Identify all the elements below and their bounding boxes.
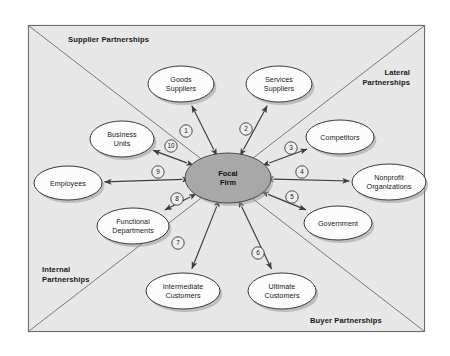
quadrant-label-buyer: Buyer Partnerships	[310, 316, 382, 325]
node-label: Customers	[264, 291, 300, 300]
quadrant-label-text: Partnerships	[42, 275, 90, 284]
number-label: 4	[300, 168, 304, 175]
node-label: Departments	[112, 226, 154, 235]
quadrant-label-text: Supplier Partnerships	[68, 35, 149, 44]
node-label: Units	[114, 139, 131, 148]
connector-number-3: 3	[285, 142, 297, 154]
connector-number-5: 5	[286, 191, 298, 203]
connector-number-9: 9	[152, 166, 164, 178]
connector-number-1: 1	[180, 125, 192, 137]
number-label: 1	[184, 127, 188, 134]
diagram-canvas: Supplier PartnershipsLateralPartnerships…	[0, 0, 450, 356]
number-label: 2	[244, 125, 248, 132]
node-label: Competitors	[320, 133, 360, 142]
quadrant-label-text: Buyer Partnerships	[310, 316, 382, 325]
node-label: Employees	[50, 179, 86, 188]
node-label: Firm	[220, 178, 236, 187]
connector-number-10: 10	[165, 140, 177, 152]
quadrant-label-supplier: Supplier Partnerships	[68, 35, 149, 44]
number-label: 10	[167, 142, 175, 149]
partnership-diagram: Supplier PartnershipsLateralPartnerships…	[0, 0, 450, 356]
node-label: Suppliers	[166, 84, 197, 93]
number-label: 3	[289, 144, 293, 151]
number-label: 6	[256, 249, 260, 256]
node-label: Suppliers	[264, 84, 295, 93]
node-label: Customers	[165, 291, 201, 300]
connector-number-2: 2	[240, 123, 252, 135]
number-label: 5	[290, 193, 294, 200]
quadrant-label-text: Internal	[42, 265, 70, 274]
connector-number-7: 7	[172, 237, 184, 249]
connector-number-4: 4	[296, 166, 308, 178]
node-label: Organizations	[367, 182, 412, 191]
number-label: 8	[175, 195, 179, 202]
number-label: 9	[156, 168, 160, 175]
quadrant-label-text: Partnerships	[362, 78, 410, 87]
node-label: Government	[318, 219, 358, 228]
quadrant-label-text: Lateral	[384, 68, 410, 77]
number-label: 7	[176, 239, 180, 246]
connector-number-6: 6	[252, 247, 264, 259]
connector-number-8: 8	[171, 193, 183, 205]
